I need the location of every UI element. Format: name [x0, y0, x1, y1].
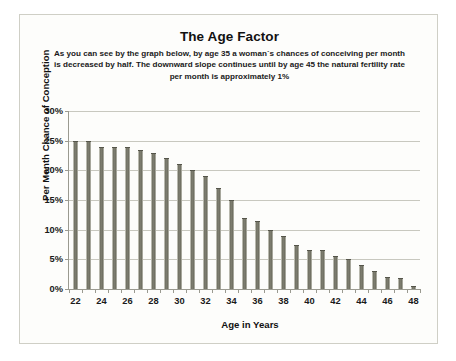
gridline	[69, 111, 420, 112]
x-axis-tick	[186, 289, 187, 293]
y-axis-tick-label: 20%	[44, 165, 63, 175]
bar	[164, 158, 170, 289]
x-axis-tick	[134, 289, 135, 293]
gridline	[69, 170, 420, 171]
x-axis-tick	[381, 289, 382, 293]
bar	[203, 176, 209, 289]
bar	[346, 259, 352, 289]
x-axis-label: Age in Years	[70, 319, 430, 330]
x-axis-tick-label: 40	[304, 296, 314, 306]
x-axis-tick	[212, 289, 213, 293]
x-axis-tick	[108, 289, 109, 293]
x-axis-tick	[121, 289, 122, 293]
bar	[86, 141, 92, 289]
bar	[268, 230, 274, 289]
x-axis-tick	[199, 289, 200, 293]
bar	[372, 271, 378, 289]
y-axis-tick-label: 30%	[44, 106, 63, 116]
x-axis-tick	[264, 289, 265, 293]
bar	[385, 277, 391, 289]
bar	[307, 250, 313, 289]
x-axis-tick	[316, 289, 317, 293]
gridline	[69, 141, 420, 142]
x-axis-tick-label: 24	[96, 296, 106, 306]
x-axis-tick-label: 26	[122, 296, 132, 306]
bar	[411, 286, 417, 289]
y-axis-tick	[65, 200, 69, 201]
bar	[229, 200, 235, 289]
x-axis-tick-label: 34	[226, 296, 236, 306]
bar	[73, 141, 79, 289]
x-axis-tick	[160, 289, 161, 293]
bar	[333, 256, 339, 289]
y-axis-tick-label: 0%	[50, 284, 63, 294]
x-axis-tick-label: 38	[278, 296, 288, 306]
bar	[398, 278, 404, 289]
x-axis-tick-label: 28	[148, 296, 158, 306]
x-axis-tick-label: 42	[330, 296, 340, 306]
y-axis-tick	[65, 170, 69, 171]
chart-subtitle: As you can see by the graph below, by ag…	[50, 48, 409, 82]
x-axis-tick-label: 32	[200, 296, 210, 306]
y-axis-tick	[65, 259, 69, 260]
y-axis-tick	[65, 230, 69, 231]
y-axis-tick-label: 15%	[44, 195, 63, 205]
x-axis-tick	[342, 289, 343, 293]
bar	[281, 236, 287, 289]
bar	[190, 170, 196, 289]
x-axis-tick	[420, 289, 421, 293]
plot-area: 0%5%10%15%20%25%30%222426283032343638404…	[68, 111, 420, 290]
x-axis-tick-label: 48	[408, 296, 418, 306]
x-axis-tick	[95, 289, 96, 293]
chart-title: The Age Factor	[20, 29, 439, 44]
x-axis-tick	[251, 289, 252, 293]
bar	[255, 221, 261, 289]
bar	[294, 245, 300, 290]
x-axis-tick	[238, 289, 239, 293]
bar	[151, 153, 157, 289]
chart-container: The Age Factor As you can see by the gra…	[19, 14, 438, 344]
bar	[112, 147, 118, 289]
x-axis-tick	[225, 289, 226, 293]
x-axis-tick	[82, 289, 83, 293]
y-axis-tick-label: 25%	[44, 136, 63, 146]
x-axis-tick	[303, 289, 304, 293]
bar	[177, 164, 183, 289]
x-axis-tick-label: 44	[356, 296, 366, 306]
y-axis-tick	[65, 111, 69, 112]
x-axis-tick	[368, 289, 369, 293]
x-axis-tick	[355, 289, 356, 293]
x-axis-tick	[394, 289, 395, 293]
x-axis-tick-label: 46	[382, 296, 392, 306]
x-axis-tick-label: 36	[252, 296, 262, 306]
y-axis-label: Per Month Chance of Conception	[40, 45, 53, 205]
gridline	[69, 200, 420, 201]
x-axis-tick-label: 22	[70, 296, 80, 306]
x-axis-tick	[277, 289, 278, 293]
bar	[242, 218, 248, 289]
x-axis-tick	[290, 289, 291, 293]
bar	[125, 147, 131, 289]
x-axis-tick	[407, 289, 408, 293]
bar	[359, 265, 365, 289]
bar	[320, 250, 326, 289]
x-axis-tick-label: 30	[174, 296, 184, 306]
y-axis-tick-label: 10%	[44, 225, 63, 235]
bar	[216, 188, 222, 289]
x-axis-tick	[147, 289, 148, 293]
bar	[99, 147, 105, 289]
y-axis-tick	[65, 141, 69, 142]
y-axis-tick-label: 5%	[50, 254, 63, 264]
bar	[138, 150, 144, 289]
x-axis-tick	[329, 289, 330, 293]
x-axis-tick	[173, 289, 174, 293]
x-axis-tick	[69, 289, 70, 293]
